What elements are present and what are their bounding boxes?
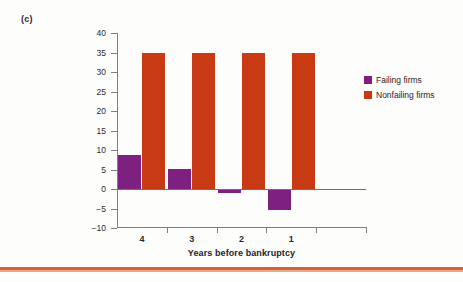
y-axis-tick-labels: 4035302520151050−5−10 bbox=[80, 0, 106, 282]
x-axis-tick bbox=[316, 227, 317, 233]
x-axis-tick-label: 2 bbox=[222, 234, 262, 244]
y-axis-tick bbox=[111, 72, 117, 73]
bar-nonfailing-year-4 bbox=[142, 53, 165, 190]
legend-label: Nonfailing firms bbox=[376, 90, 435, 100]
y-axis-tick bbox=[111, 53, 117, 54]
y-axis-tick-label: 40 bbox=[80, 29, 106, 38]
y-axis-tick bbox=[111, 33, 117, 34]
y-axis-tick-label: 15 bbox=[80, 127, 106, 136]
x-axis-tick-label: 4 bbox=[122, 234, 162, 244]
legend-swatch-icon bbox=[364, 76, 372, 84]
y-axis-tick-label: 30 bbox=[80, 68, 106, 77]
y-axis-tick-label: 35 bbox=[80, 49, 106, 58]
bar-nonfailing-year-1 bbox=[292, 53, 315, 190]
bar-failing-year-1 bbox=[268, 189, 291, 210]
page-rule-shadow bbox=[0, 270, 463, 272]
legend-item: Nonfailing firms bbox=[364, 88, 460, 102]
chart-figure: (c) EBITDA as % of total liabilities 403… bbox=[0, 0, 463, 282]
y-axis-line bbox=[117, 33, 118, 228]
zero-baseline bbox=[117, 189, 366, 190]
x-axis-tick bbox=[266, 227, 267, 233]
y-axis-tick bbox=[111, 209, 117, 210]
legend-swatch-icon bbox=[364, 91, 372, 99]
x-axis-tick-label: 1 bbox=[271, 234, 311, 244]
y-axis-tick-label: 5 bbox=[80, 166, 106, 175]
y-axis-tick-label: 10 bbox=[80, 146, 106, 155]
y-axis-tick bbox=[111, 131, 117, 132]
x-axis-tick bbox=[366, 227, 367, 233]
y-axis-tick bbox=[111, 92, 117, 93]
bar-failing-year-3 bbox=[168, 169, 191, 189]
x-axis-title: Years before bankruptcy bbox=[117, 248, 366, 258]
y-axis-tick bbox=[111, 170, 117, 171]
legend-label: Failing firms bbox=[376, 75, 422, 85]
x-axis-tick bbox=[217, 227, 218, 233]
chart-legend: Failing firmsNonfailing firms bbox=[364, 73, 460, 103]
y-axis-tick-label: 20 bbox=[80, 107, 106, 116]
x-axis-line bbox=[117, 227, 366, 228]
panel-label: (c) bbox=[21, 14, 33, 24]
bar-nonfailing-year-2 bbox=[242, 53, 265, 190]
bar-nonfailing-year-3 bbox=[192, 53, 215, 190]
y-axis-tick-label: −5 bbox=[80, 205, 106, 214]
y-axis-tick-label: −10 bbox=[80, 224, 106, 233]
legend-item: Failing firms bbox=[364, 73, 460, 87]
bar-failing-year-4 bbox=[118, 155, 141, 189]
y-axis-tick bbox=[111, 150, 117, 151]
y-axis-tick bbox=[111, 111, 117, 112]
x-axis-tick bbox=[167, 227, 168, 233]
y-axis-tick-label: 0 bbox=[80, 185, 106, 194]
y-axis-tick-label: 25 bbox=[80, 88, 106, 97]
x-axis-tick-label: 3 bbox=[172, 234, 212, 244]
y-axis-tick bbox=[111, 228, 117, 229]
